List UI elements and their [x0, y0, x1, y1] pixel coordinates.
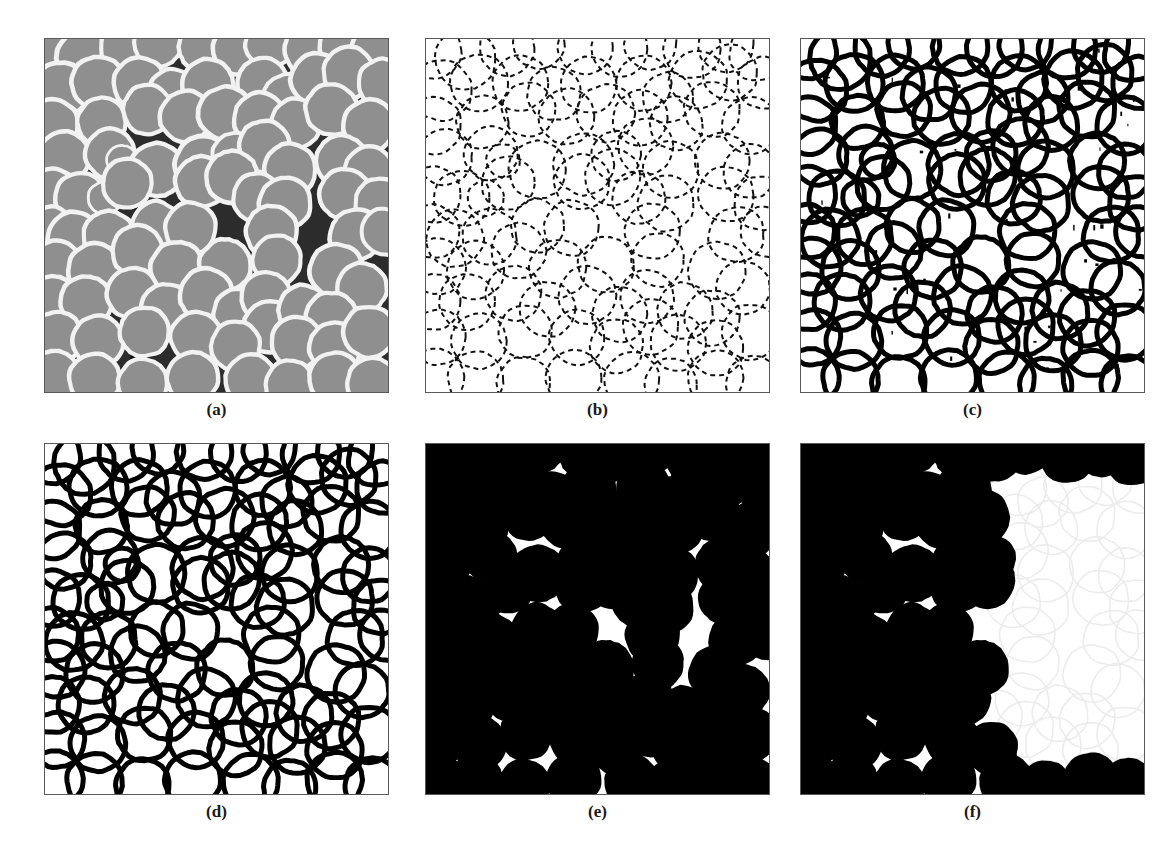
panel-e-label: (e)	[425, 801, 770, 823]
panel-d-image	[44, 443, 389, 795]
panel-f-image	[800, 443, 1145, 795]
panel-e-image	[425, 443, 770, 795]
panel-f-label: (f)	[800, 801, 1145, 823]
panel-a-label: (a)	[44, 399, 389, 421]
panel-d-label: (d)	[44, 801, 389, 823]
panel-c-label: (c)	[800, 399, 1145, 421]
panel-b-label: (b)	[425, 399, 770, 421]
panel-e: (e)	[425, 443, 770, 821]
panel-a: (a)	[44, 38, 389, 419]
figure-container: (a)(b)(c)(d)(e)(f)	[0, 0, 1175, 856]
panel-b-image	[425, 38, 770, 393]
panel-f: (f)	[800, 443, 1145, 821]
panel-d: (d)	[44, 443, 389, 821]
panel-c: (c)	[800, 38, 1145, 419]
panel-c-image	[800, 38, 1145, 393]
panel-b: (b)	[425, 38, 770, 419]
panel-a-image	[44, 38, 389, 393]
